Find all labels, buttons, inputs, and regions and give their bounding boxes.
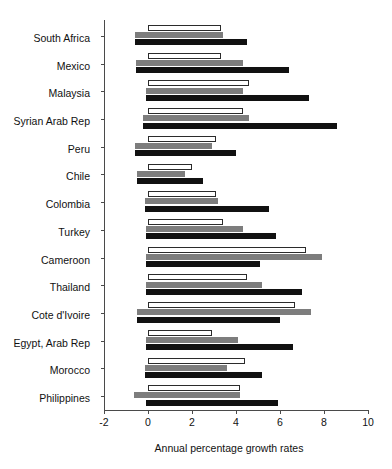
bar-black (146, 289, 302, 295)
bar-gray (136, 60, 243, 66)
x-axis-tick (324, 410, 325, 414)
x-axis-tick (368, 410, 369, 414)
bar-black (135, 150, 236, 156)
x-axis-tick (280, 410, 281, 414)
bar-black (146, 95, 309, 101)
x-axis-tick (236, 410, 237, 414)
y-axis-label: Peru (68, 144, 90, 155)
x-axis-line: -20246810 (104, 410, 368, 411)
bar-white (148, 164, 192, 170)
bar-black (145, 206, 269, 212)
y-axis-label: Thailand (50, 282, 90, 293)
bar-group (104, 50, 368, 78)
bar-black (146, 344, 293, 350)
bar-group (104, 299, 368, 327)
bar-group (104, 382, 368, 410)
bar-black (146, 261, 260, 267)
bar-white (148, 219, 223, 225)
bar-gray (134, 392, 241, 398)
bar-gray (137, 309, 311, 315)
bar-black (146, 233, 276, 239)
x-axis-tick-label: 6 (277, 416, 283, 428)
bar-white (148, 385, 240, 391)
bar-group (104, 133, 368, 161)
bar-gray (135, 32, 223, 38)
bar-gray (137, 171, 185, 177)
plot-area (104, 22, 368, 410)
x-axis-title: Annual percentage growth rates (0, 442, 392, 454)
x-axis-tick (148, 410, 149, 414)
y-axis-label: Morocco (50, 365, 90, 376)
bar-white (148, 80, 249, 86)
x-axis-tick-label: 8 (321, 416, 327, 428)
x-axis-tick-label: 4 (233, 416, 239, 428)
x-axis-tick (104, 410, 105, 414)
bar-black (137, 178, 203, 184)
bar-white (148, 136, 216, 142)
y-axis-label: Turkey (58, 227, 90, 238)
bar-group (104, 327, 368, 355)
bar-gray (145, 365, 228, 371)
bar-black (137, 317, 280, 323)
x-axis-tick-label: 2 (189, 416, 195, 428)
bar-white (148, 108, 243, 114)
bar-gray (143, 115, 250, 121)
bar-group (104, 188, 368, 216)
bar-white (148, 330, 212, 336)
bar-group (104, 161, 368, 189)
bar-white (148, 302, 295, 308)
y-axis-label: Malaysia (49, 88, 90, 99)
bar-white (148, 25, 221, 31)
y-axis-label: South Africa (33, 33, 90, 44)
bar-gray (135, 143, 212, 149)
y-axis-label: Syrian Arab Rep (14, 116, 90, 127)
bar-black (135, 39, 247, 45)
x-axis-tick (192, 410, 193, 414)
bar-group (104, 244, 368, 272)
y-axis-label: Cote d'Ivoire (31, 310, 90, 321)
y-axis-label: Egypt, Arab Rep (14, 338, 90, 349)
bar-group (104, 271, 368, 299)
bar-white (148, 53, 221, 59)
y-axis-labels: South AfricaMexicoMalaysiaSyrian Arab Re… (0, 22, 98, 410)
y-axis-label: Mexico (57, 61, 90, 72)
x-axis-tick-label: 0 (145, 416, 151, 428)
bar-white (148, 191, 216, 197)
bar-group (104, 355, 368, 383)
bar-gray (145, 198, 219, 204)
x-axis-tick-label: -2 (99, 416, 108, 428)
x-axis-tick-label: 10 (362, 416, 374, 428)
bar-group (104, 216, 368, 244)
bar-group (104, 105, 368, 133)
bar-gray (146, 282, 263, 288)
bar-black (145, 372, 263, 378)
bar-gray (146, 254, 322, 260)
y-axis-label: Philippines (39, 393, 90, 404)
bar-gray (146, 337, 238, 343)
bar-black (146, 400, 278, 406)
bar-group (104, 22, 368, 50)
y-axis-label: Chile (66, 171, 90, 182)
bar-white (148, 247, 306, 253)
bar-white (148, 274, 247, 280)
bar-black (136, 67, 289, 73)
bar-black (143, 123, 338, 129)
bar-gray (146, 88, 243, 94)
y-axis-label: Cameroon (41, 255, 90, 266)
bar-gray (146, 226, 243, 232)
bar-group (104, 77, 368, 105)
y-axis-label: Colombia (46, 199, 90, 210)
bar-chart: South AfricaMexicoMalaysiaSyrian Arab Re… (0, 0, 392, 469)
bar-white (148, 358, 245, 364)
